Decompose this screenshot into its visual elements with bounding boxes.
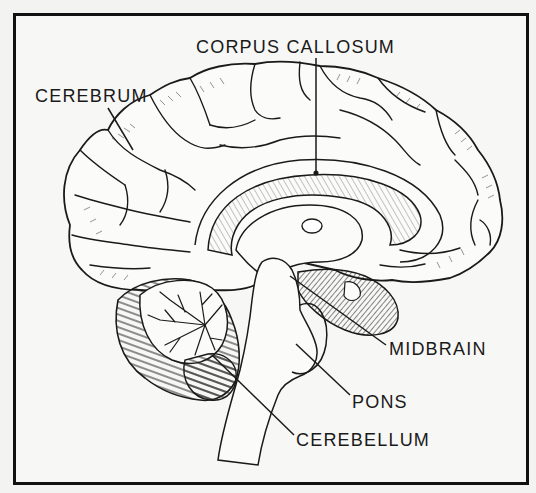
label-cerebellum: CEREBELLUM (296, 431, 430, 449)
label-pons: PONS (352, 393, 408, 411)
brain-illustration (0, 0, 536, 493)
label-corpus-callosum: CORPUS CALLOSUM (196, 38, 395, 56)
label-midbrain: MIDBRAIN (389, 340, 487, 358)
label-cerebrum: CEREBRUM (35, 87, 148, 105)
cerebellum-shape (116, 279, 239, 401)
